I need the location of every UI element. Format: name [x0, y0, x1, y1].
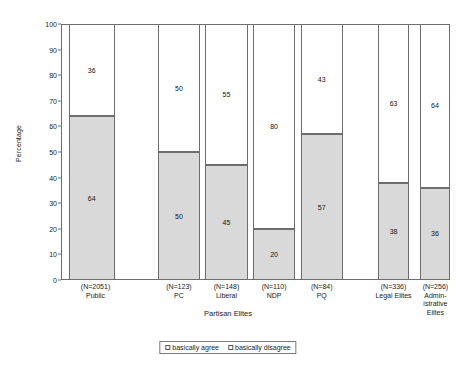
bar-group-pq[interactable]: 4357: [301, 24, 343, 280]
chart-legend: basically agreebasically disagree: [159, 341, 296, 354]
bar-value-agree-ndp: 20: [270, 251, 278, 258]
bar-segment-disagree-ndp[interactable]: 80: [253, 24, 295, 229]
bar-segment-disagree-liberal[interactable]: 55: [205, 24, 247, 165]
y-tick-label: 90: [49, 46, 57, 53]
bar-segment-agree-public[interactable]: 64: [69, 116, 115, 280]
bar-value-disagree-public: 36: [88, 67, 96, 74]
legend-swatch-icon-1: [228, 345, 233, 350]
bar-segment-agree-pc[interactable]: 50: [158, 152, 200, 280]
bar-value-disagree-pc: 50: [175, 85, 183, 92]
bar-group-liberal[interactable]: 5545: [205, 24, 247, 280]
y-tick-label: 40: [49, 174, 57, 181]
bar-value-agree-pq: 57: [318, 204, 326, 211]
y-tick-label: 30: [49, 200, 57, 207]
bar-group-ndp[interactable]: 8020: [253, 24, 295, 280]
legend-swatch-icon-0: [165, 345, 170, 350]
bar-segment-disagree-pc[interactable]: 50: [158, 24, 200, 152]
x-axis-category-labels: (N=2051)Public(N=123)PC(N=148)Liberal(N=…: [61, 283, 445, 329]
bar-group-pc[interactable]: 5050: [158, 24, 200, 280]
bar-segment-agree-ndp[interactable]: 20: [253, 229, 295, 280]
y-tick-label: 80: [49, 72, 57, 79]
category-name-administrative-elites-line1: Admin-: [395, 292, 456, 301]
bar-segment-disagree-pq[interactable]: 43: [301, 24, 343, 134]
x-axis-title: Partisan Elites: [0, 309, 456, 318]
bar-segment-agree-liberal[interactable]: 45: [205, 165, 247, 280]
sample-size-public: (N=2051): [53, 283, 137, 292]
y-tick-label: 70: [49, 97, 57, 104]
y-tick-label: 50: [49, 149, 57, 156]
bar-segment-agree-pq[interactable]: 57: [301, 134, 343, 280]
bar-segment-disagree-legal-elites[interactable]: 63: [378, 24, 409, 183]
bar-value-disagree-administrative-elites: 64: [431, 102, 439, 109]
category-name-public-line1: Public: [53, 292, 137, 301]
legend-item-0[interactable]: basically agree: [165, 344, 219, 351]
bar-value-agree-administrative-elites: 36: [431, 230, 439, 237]
y-tick-label: 100: [45, 21, 57, 28]
bar-value-disagree-pq: 43: [318, 76, 326, 83]
stacked-bar-chart: Percentage 1009080706050403020100 366450…: [0, 0, 456, 369]
bar-segment-agree-administrative-elites[interactable]: 36: [420, 188, 451, 280]
legend-label-1: basically disagree: [235, 344, 291, 351]
bar-value-agree-legal-elites: 38: [390, 228, 398, 235]
bar-value-agree-pc: 50: [175, 213, 183, 220]
bar-value-disagree-liberal: 55: [223, 91, 231, 98]
bar-group-administrative-elites[interactable]: 6436: [420, 24, 451, 280]
y-tick-label: 60: [49, 123, 57, 130]
legend-label-0: basically agree: [172, 344, 219, 351]
y-tick-label: 10: [49, 251, 57, 258]
y-tick-label: 20: [49, 225, 57, 232]
bar-group-legal-elites[interactable]: 6338: [378, 24, 409, 280]
y-axis-ticks: 1009080706050403020100: [0, 24, 61, 280]
bar-segment-disagree-administrative-elites[interactable]: 64: [420, 24, 451, 188]
bar-value-agree-liberal: 45: [223, 219, 231, 226]
bar-segment-disagree-public[interactable]: 36: [69, 24, 115, 116]
bar-segment-agree-legal-elites[interactable]: 38: [378, 183, 409, 280]
bar-value-disagree-ndp: 80: [270, 123, 278, 130]
sample-size-administrative-elites: (N=256): [395, 283, 456, 292]
x-label-public: (N=2051)Public: [53, 283, 137, 300]
category-name-administrative-elites-line2: istrative: [395, 300, 456, 309]
bar-value-agree-public: 64: [88, 195, 96, 202]
bar-group-public[interactable]: 3664: [69, 24, 115, 280]
legend-item-1[interactable]: basically disagree: [228, 344, 291, 351]
bars-layer: 3664505055458020435763386436: [61, 24, 445, 280]
bar-value-disagree-legal-elites: 63: [390, 100, 398, 107]
